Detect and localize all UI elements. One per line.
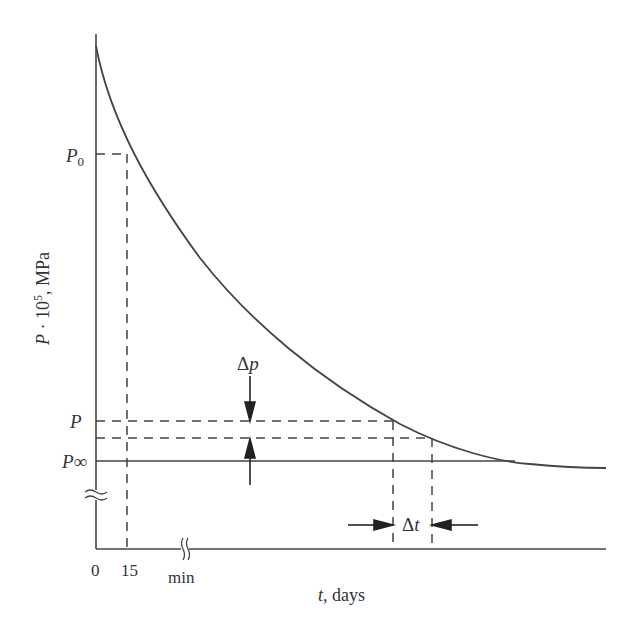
arrow-left-icon: [432, 520, 451, 530]
delta-p-label: Δp: [237, 353, 259, 374]
delta-p-arrows: [245, 376, 255, 485]
y-label-p: P: [69, 411, 82, 432]
pressure-decay-diagram: P0 P P∞ Δp Δt 0 15 min t, days P · 105, …: [0, 0, 636, 634]
x-axis-label: t, days: [318, 585, 365, 605]
y-label-p0: P0: [65, 145, 84, 169]
delta-t-label: Δt: [402, 514, 420, 535]
y-axis-label: P · 105, MPa: [31, 252, 53, 346]
x-tick-0: 0: [91, 561, 100, 580]
x-axis-break-icon: [181, 538, 190, 560]
axes: [96, 34, 606, 549]
arrow-up-icon: [245, 439, 255, 458]
x-break-label-min: min: [168, 568, 195, 587]
y-axis-break-icon: [84, 490, 108, 500]
y-label-pinf: P∞: [61, 451, 87, 472]
pressure-curve: [96, 46, 606, 468]
reference-lines: [96, 154, 432, 549]
x-tick-15: 15: [121, 561, 138, 580]
arrow-right-icon: [374, 520, 393, 530]
arrow-down-icon: [245, 402, 255, 421]
